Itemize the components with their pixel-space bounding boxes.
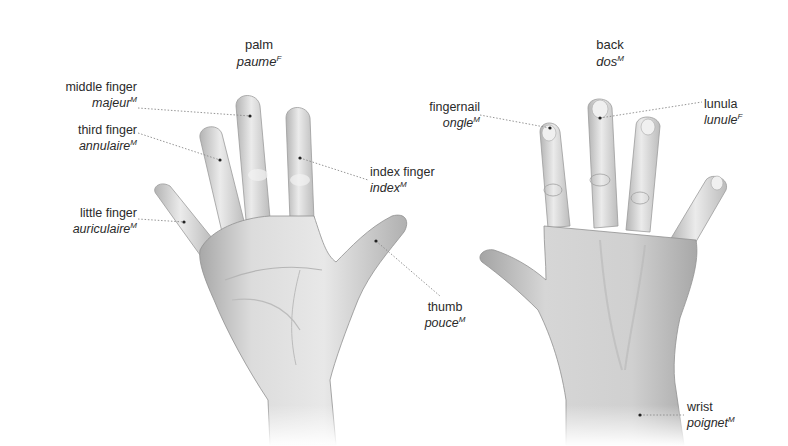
label-little-finger: little finger auriculaireM <box>30 205 137 237</box>
leader-middle-finger <box>138 108 250 116</box>
back-title: back dosM <box>575 36 645 70</box>
leader-lunula <box>600 102 702 118</box>
back-title-en: back <box>575 36 645 53</box>
palm-hand-illustration <box>155 96 407 446</box>
palm-title-en: palm <box>224 36 294 53</box>
label-thumb: thumb pouceM <box>410 299 480 331</box>
back-hand-illustration <box>480 99 727 446</box>
palm-title-fr: paumeF <box>224 53 294 70</box>
label-fingernail: fingernail ongleM <box>400 99 480 131</box>
label-index-finger: index finger indexM <box>370 164 480 196</box>
palm-title: palm paumeF <box>224 36 294 70</box>
leader-fingernail <box>480 115 550 128</box>
label-middle-finger: middle finger majeurM <box>30 79 137 111</box>
back-title-fr: dosM <box>575 53 645 70</box>
label-lunula: lunula lunuleF <box>704 96 784 128</box>
label-wrist: wrist poignetM <box>687 399 777 431</box>
label-third-finger: third finger annulaireM <box>30 122 137 154</box>
